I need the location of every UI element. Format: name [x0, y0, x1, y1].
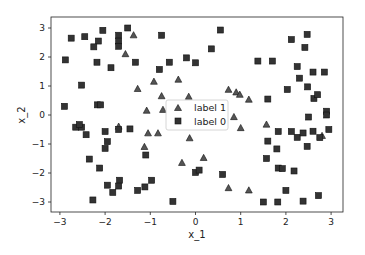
- square-marker: [304, 31, 310, 37]
- square-marker: [170, 198, 176, 204]
- square-marker: [125, 25, 131, 31]
- square-marker: [82, 34, 88, 40]
- square-marker: [294, 64, 300, 70]
- square-marker: [86, 156, 92, 162]
- square-marker: [300, 198, 306, 204]
- square-marker: [317, 135, 323, 141]
- legend-square-icon: [175, 118, 181, 124]
- square-marker: [116, 183, 122, 189]
- square-marker: [291, 168, 297, 174]
- square-marker: [83, 132, 89, 138]
- square-marker: [68, 35, 74, 41]
- y-tick-label: 3: [39, 23, 45, 33]
- square-marker: [288, 129, 294, 135]
- square-marker: [116, 32, 122, 38]
- square-marker: [263, 156, 269, 162]
- square-marker: [300, 130, 306, 136]
- square-marker: [310, 128, 316, 134]
- x-tick-label: 3: [328, 217, 334, 227]
- square-marker: [156, 66, 162, 72]
- square-marker: [159, 32, 165, 38]
- square-marker: [315, 193, 321, 199]
- square-marker: [265, 96, 271, 102]
- square-marker: [284, 86, 290, 92]
- square-marker: [90, 197, 96, 203]
- square-marker: [61, 103, 67, 109]
- x-tick-label: 0: [193, 217, 199, 227]
- square-marker: [62, 57, 68, 63]
- square-marker: [265, 138, 271, 144]
- x-tick-label: −2: [98, 217, 111, 227]
- square-marker: [91, 44, 97, 50]
- square-marker: [142, 184, 148, 190]
- y-axis-label: x_2: [16, 106, 28, 123]
- square-marker: [166, 59, 172, 65]
- square-marker: [294, 134, 300, 140]
- square-marker: [302, 44, 308, 50]
- y-tick-label: 2: [39, 52, 45, 62]
- square-marker: [104, 182, 110, 188]
- square-marker: [269, 58, 275, 64]
- square-marker: [220, 171, 226, 177]
- square-marker: [102, 145, 108, 151]
- square-marker: [97, 165, 103, 171]
- y-tick-label: 0: [39, 110, 45, 120]
- y-tick-label: −1: [32, 139, 45, 149]
- square-marker: [321, 69, 327, 75]
- square-marker: [305, 84, 311, 90]
- square-marker: [116, 127, 122, 133]
- square-marker: [135, 187, 141, 193]
- square-marker: [100, 27, 106, 33]
- square-marker: [132, 59, 138, 65]
- square-marker: [208, 46, 214, 52]
- square-marker: [193, 60, 199, 66]
- square-marker: [127, 126, 133, 132]
- square-marker: [183, 55, 189, 61]
- square-marker: [98, 102, 104, 108]
- square-marker: [255, 58, 261, 64]
- square-marker: [79, 82, 85, 88]
- square-marker: [324, 112, 330, 118]
- square-marker: [108, 65, 114, 71]
- square-marker: [76, 122, 82, 128]
- square-marker: [288, 37, 294, 43]
- x-tick-label: −1: [144, 217, 157, 227]
- x-tick-label: −3: [53, 217, 66, 227]
- legend-label-0: label 0: [194, 116, 226, 127]
- square-marker: [217, 27, 223, 33]
- x-axis-label: x_1: [188, 229, 205, 241]
- y-tick-label: −3: [32, 197, 45, 207]
- legend: label 1 label 0: [166, 100, 228, 130]
- square-marker: [315, 92, 321, 98]
- square-marker: [296, 75, 302, 81]
- square-marker: [95, 38, 101, 44]
- square-marker: [94, 59, 100, 65]
- square-marker: [110, 189, 116, 195]
- square-marker: [116, 43, 122, 49]
- square-marker: [274, 146, 280, 152]
- x-tick-label: 2: [283, 217, 289, 227]
- y-tick-label: −2: [32, 168, 45, 178]
- square-marker: [283, 187, 289, 193]
- square-marker: [304, 143, 310, 149]
- scatter-chart: −3−2−10123−3−2−10123 label 1 label 0 x_1…: [0, 0, 365, 255]
- square-marker: [279, 166, 285, 172]
- square-marker: [310, 69, 316, 75]
- square-marker: [104, 139, 110, 145]
- y-tick-label: 1: [39, 81, 45, 91]
- x-tick-label: 1: [238, 217, 244, 227]
- square-marker: [117, 177, 123, 183]
- square-marker: [275, 199, 281, 205]
- square-marker: [143, 152, 149, 158]
- legend-label-1: label 1: [194, 102, 226, 113]
- square-marker: [275, 129, 281, 135]
- square-marker: [102, 129, 108, 135]
- square-marker: [196, 167, 202, 173]
- square-marker: [149, 177, 155, 183]
- square-marker: [260, 199, 266, 205]
- square-marker: [326, 127, 332, 133]
- square-marker: [306, 114, 312, 120]
